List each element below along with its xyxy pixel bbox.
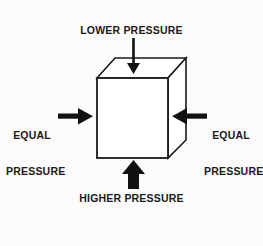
arrow-left-head	[78, 108, 93, 125]
label-equal-pressure-left: EQUAL PRESSURE	[6, 105, 58, 201]
label-equal-pressure-right-line2: PRESSURE	[204, 165, 258, 177]
arrow-bottom-shaft	[128, 172, 139, 189]
label-lower-pressure: LOWER PRESSURE	[0, 24, 263, 36]
pressure-cube-diagram: LOWER PRESSURE HIGHER PRESSURE EQUAL PRE…	[0, 0, 263, 246]
arrow-bottom-up	[122, 160, 145, 189]
cube-group	[97, 58, 186, 158]
label-equal-pressure-left-line1: EQUAL	[6, 129, 58, 141]
arrow-top-shaft	[132, 38, 135, 65]
arrow-bottom-head	[122, 160, 145, 174]
cube-front-face	[97, 78, 168, 158]
label-equal-pressure-left-line2: PRESSURE	[6, 165, 58, 177]
arrow-left-shaft	[58, 114, 80, 119]
arrow-left-right	[58, 108, 93, 125]
label-equal-pressure-right: EQUAL PRESSURE	[204, 105, 258, 201]
label-equal-pressure-right-line1: EQUAL	[204, 129, 258, 141]
